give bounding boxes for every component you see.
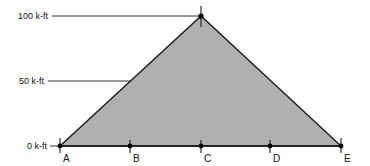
station-label-b: B	[133, 153, 140, 164]
station-label-d: D	[273, 153, 280, 164]
node-marker-c	[199, 144, 204, 149]
node-marker-b	[128, 144, 133, 149]
elevation-label-100: 100 k-ft	[18, 11, 49, 21]
elevation-profile-figure: 100 k-ft 50 k-ft 0 k-ft A B C D E	[0, 0, 370, 166]
station-label-e: E	[344, 153, 351, 164]
figure-canvas: 100 k-ft 50 k-ft 0 k-ft A B C D E	[0, 0, 370, 166]
node-marker-e	[339, 144, 344, 149]
station-label-a: A	[63, 153, 70, 164]
elevation-label-0: 0 k-ft	[27, 141, 48, 151]
node-marker-a	[58, 144, 63, 149]
node-marker-apex	[198, 13, 203, 18]
station-label-c: C	[204, 153, 211, 164]
elevation-label-50: 50 k-ft	[19, 76, 45, 86]
node-marker-d	[268, 144, 273, 149]
